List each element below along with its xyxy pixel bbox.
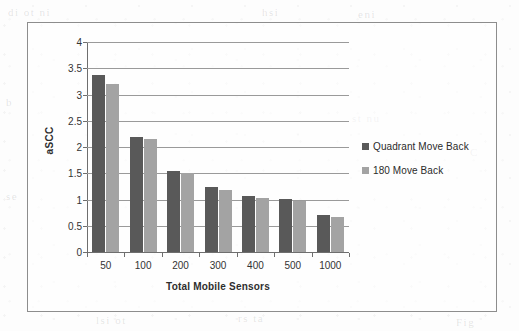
bar [242,196,255,252]
x-tick-label: 100 [135,260,152,271]
bar [293,201,306,252]
bar [219,190,232,252]
y-tick-label: 0 [76,247,82,258]
x-axis-title: Total Mobile Sensors [87,281,349,292]
bar [181,173,194,252]
x-tick-label: 1000 [319,260,341,271]
y-tick-label: 2 [76,142,82,153]
y-tick-label: 3 [76,89,82,100]
figure-frame: aSCC 00.511.522.533.54 50100200300400500… [27,22,497,312]
legend-label: 180 Move Back [373,165,443,176]
y-tick-label: 4 [76,37,82,48]
y-tick-label: 3.5 [68,63,82,74]
bar-group [92,42,119,252]
x-tick-mark [162,253,163,257]
y-tick-label: 0.5 [68,220,82,231]
y-tick-label: 1.5 [68,168,82,179]
bar-group [130,42,157,252]
bar-group [205,42,232,252]
legend-swatch-quadrant-move-back [362,143,369,150]
bar [130,137,143,253]
legend-item: 180 Move Back [362,165,494,176]
bar [331,217,344,252]
bar-group [167,42,194,252]
bar [106,84,119,252]
x-tick-mark [274,253,275,257]
x-tick-label: 50 [100,260,111,271]
bar [317,215,330,252]
bar-group [242,42,269,252]
legend-label: Quadrant Move Back [373,141,469,152]
bar [205,187,218,252]
legend-item: Quadrant Move Back [362,141,494,152]
x-tick-label: 400 [247,260,264,271]
bar-series-layer [87,42,349,253]
bar [92,75,105,252]
x-tick-label: 300 [210,260,227,271]
y-tick-label: 2.5 [68,115,82,126]
y-tick-label: 1 [76,194,82,205]
x-tick-mark [312,253,313,257]
bar [256,198,269,252]
plot-area: 00.511.522.533.54 501002003004005001000 [87,42,349,253]
x-tick-mark [349,253,350,257]
bar [144,139,157,252]
bar-group [279,42,306,252]
x-tick-mark [199,253,200,257]
bar-group [317,42,344,252]
x-tick-label: 200 [172,260,189,271]
bar [279,199,292,252]
x-tick-label: 500 [285,260,302,271]
bar [167,171,180,252]
legend-swatch-180-move-back [362,167,369,174]
x-tick-mark [87,253,88,257]
bar-chart: aSCC 00.511.522.533.54 50100200300400500… [28,23,498,313]
x-tick-mark [237,253,238,257]
x-tick-mark [124,253,125,257]
y-axis-title: aSCC [44,106,55,176]
chart-legend: Quadrant Move Back180 Move Back [362,141,494,189]
